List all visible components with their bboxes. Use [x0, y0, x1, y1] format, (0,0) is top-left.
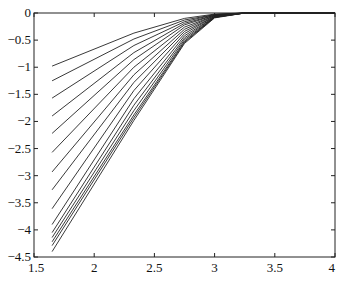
y-tick-label: −3.5: [7, 195, 31, 210]
x-tick-label: 3: [211, 260, 218, 275]
y-tick-label: −1.5: [7, 86, 31, 101]
y-tick-label: 0: [25, 5, 32, 20]
line-chart: 1.522.533.54 0−0.5−1−1.5−2−2.5−3−3.5−4−4…: [0, 0, 342, 281]
y-tick-label: −3: [17, 168, 31, 183]
series-line: [52, 13, 335, 246]
x-tick-label: 3.5: [267, 260, 283, 275]
series-line: [52, 13, 335, 98]
y-tick-label: −4: [17, 222, 31, 237]
plot-area-frame: [34, 13, 335, 257]
x-tick-label: 2.5: [146, 260, 162, 275]
y-tick-label: −4.5: [7, 249, 31, 264]
x-tick-label: 2: [91, 260, 98, 275]
x-axis: 1.522.533.54: [28, 13, 336, 275]
y-tick-label: −2.5: [7, 141, 31, 156]
y-tick-label: −1: [17, 59, 31, 74]
series-line: [52, 13, 335, 233]
x-tick-label: 4: [329, 260, 336, 275]
series-line: [52, 13, 335, 225]
y-tick-label: −2: [17, 113, 31, 128]
series-lines: [52, 13, 335, 252]
series-line: [52, 13, 335, 242]
series-line: [52, 13, 335, 238]
series-line: [52, 13, 335, 190]
y-tick-label: −0.5: [7, 32, 31, 47]
